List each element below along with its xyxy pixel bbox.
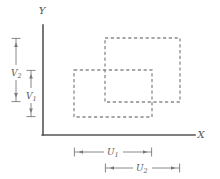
dimension-bar-u1: U1 <box>74 145 152 159</box>
axes-group: Y X <box>39 5 206 140</box>
x-axis-label: X <box>196 129 205 140</box>
u2-arrow-left <box>110 166 115 170</box>
dimension-bar-v1: V1 <box>24 70 38 117</box>
rectangles-group <box>74 38 180 117</box>
u2-arrow-right <box>171 166 176 170</box>
v2-arrow-down <box>14 93 18 98</box>
v1-label-subscript: 1 <box>33 95 37 103</box>
v1-arrow-up <box>29 74 33 79</box>
u1-arrow-left <box>79 150 84 154</box>
u1-arrow-right <box>143 150 148 154</box>
v1-arrow-down <box>29 109 33 114</box>
v2-label-subscript: 2 <box>17 72 22 80</box>
u2-label-subscript: 2 <box>143 167 148 175</box>
dimension-bar-v2: V2 <box>9 38 23 102</box>
vertical-dimensions-group: V2 V1 <box>9 38 38 117</box>
y-axis-label: Y <box>39 5 47 16</box>
dimension-bar-u2: U2 <box>105 161 180 175</box>
v2-arrow-up <box>14 43 18 48</box>
horizontal-dimensions-group: U1 U2 <box>74 145 180 175</box>
dashed-rectangle-1 <box>74 70 152 117</box>
u1-label-subscript: 1 <box>115 151 119 159</box>
overlapping-rectangles-figure: Y X V2 <box>0 0 220 179</box>
diagram-canvas: Y X V2 <box>0 0 220 179</box>
